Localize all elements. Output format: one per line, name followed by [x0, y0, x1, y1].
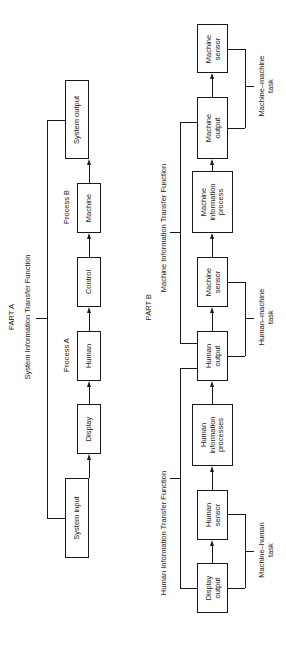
- system-output-box: System output: [65, 80, 89, 159]
- arrow-up-icon: [210, 307, 214, 313]
- human-bracket-top: [180, 368, 197, 369]
- human-info-processes-box: Human information processes: [192, 404, 233, 466]
- machine-human-task-label: Machine–human task: [258, 512, 275, 588]
- human-output-label: Human output: [204, 344, 221, 368]
- hm-task-bracket-tick: [245, 318, 254, 319]
- human-bracket-bottom: [180, 588, 197, 589]
- part-a-bracket-line: [47, 120, 48, 518]
- part-b-heading: PART B: [145, 282, 154, 332]
- connector-b7: [212, 79, 213, 97]
- arrow-up-icon: [87, 307, 91, 313]
- connector-b4: [212, 313, 213, 331]
- display-label: Display: [85, 417, 94, 442]
- hm-task-bracket-bottom: [228, 356, 245, 357]
- mh-task-bracket-tick: [245, 551, 254, 552]
- part-a-heading: PART A: [8, 292, 17, 342]
- connector-b3: [212, 387, 213, 404]
- machine-label: Machine: [85, 194, 94, 222]
- machine-bracket-line: [180, 122, 181, 344]
- connector-b6: [212, 165, 213, 171]
- machine-info-process-box: Machine information process: [192, 171, 233, 233]
- arrow-up-icon: [87, 454, 91, 460]
- human-bracket-tick: [170, 478, 180, 479]
- control-label: Control: [85, 270, 94, 294]
- control-box: Control: [77, 257, 101, 307]
- human-label: Human: [85, 344, 94, 368]
- part-a-bracket-top: [47, 120, 65, 121]
- mh-task-bracket-top: [228, 514, 245, 515]
- machine-sensor-1-box: Machine sensor: [197, 257, 228, 307]
- connector-b2: [212, 472, 213, 490]
- mh-task-bracket-bottom: [228, 588, 245, 589]
- connector-b1: [212, 546, 213, 563]
- connector-a1: [89, 460, 90, 478]
- mm-task-bracket-tick: [245, 86, 254, 87]
- machine-sensor-2-box: Machine sensor: [197, 24, 228, 73]
- mm-task-bracket-bottom: [228, 128, 245, 129]
- arrow-up-icon: [210, 233, 214, 239]
- display-box: Display: [77, 404, 101, 454]
- machine-function-title: Machine Information Transfer Function: [160, 138, 169, 318]
- human-machine-task-label: Human–machine task: [258, 279, 275, 355]
- process-a-label: Process A: [63, 330, 72, 380]
- part-a-bracket-bottom: [47, 518, 65, 519]
- arrow-up-icon: [87, 233, 91, 239]
- machine-bracket-top: [180, 122, 197, 123]
- machine-bracket-bottom: [180, 343, 197, 344]
- display-output-label: Display output: [204, 576, 221, 601]
- connector-a4: [89, 239, 90, 257]
- arrow-up-icon: [210, 466, 214, 472]
- connector-b5: [212, 239, 213, 257]
- arrow-up-icon: [210, 540, 214, 546]
- human-output-box: Human output: [197, 331, 228, 381]
- arrow-up-icon: [87, 159, 91, 165]
- human-info-processes-label: Human information processes: [200, 416, 226, 453]
- arrow-up-icon: [210, 159, 214, 165]
- machine-box: Machine: [77, 183, 101, 233]
- human-box: Human: [77, 331, 101, 381]
- part-a-function-title: System Information Transfer Function: [24, 232, 33, 402]
- machine-sensor-1-label: Machine sensor: [204, 268, 221, 296]
- machine-output-box: Machine output: [197, 97, 228, 159]
- connector-a3: [89, 313, 90, 331]
- connector-a5: [89, 165, 90, 183]
- machine-output-label: Machine output: [204, 114, 221, 142]
- part-a-bracket-tick: [36, 318, 47, 319]
- hm-task-bracket-top: [228, 282, 245, 283]
- process-b-label: Process B: [63, 182, 72, 232]
- human-function-title: Human Information Transfer Function: [160, 448, 169, 618]
- machine-bracket-tick: [170, 232, 180, 233]
- machine-sensor-2-label: Machine sensor: [204, 34, 221, 62]
- system-input-box: System input: [65, 478, 89, 558]
- display-output-box: Display output: [197, 563, 228, 613]
- arrow-up-icon: [87, 381, 91, 387]
- machine-info-process-label: Machine information process: [200, 183, 226, 220]
- arrow-up-icon: [210, 381, 214, 387]
- mm-task-bracket-top: [228, 49, 245, 50]
- human-bracket-line: [180, 368, 181, 588]
- connector-a2: [89, 387, 90, 404]
- machine-machine-task-label: Machine–machine task: [258, 44, 275, 128]
- system-output-label: System output: [73, 96, 82, 144]
- system-input-label: System input: [73, 496, 82, 539]
- human-sensor-box: Human sensor: [197, 490, 228, 540]
- mm-task-bracket-line: [245, 49, 246, 128]
- human-sensor-label: Human sensor: [204, 503, 221, 527]
- arrow-up-icon: [210, 73, 214, 79]
